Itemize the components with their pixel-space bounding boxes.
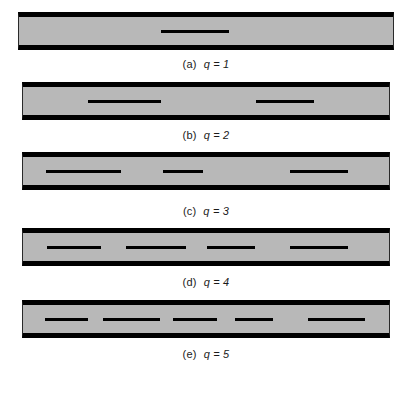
crack-segment-d-3: [207, 246, 255, 249]
crack-segment-b-2: [256, 100, 314, 103]
crack-segment-b-1: [88, 100, 161, 103]
panel-caption-e: (e)q = 5: [0, 348, 412, 360]
panel-caption-c: (c)q = 3: [0, 205, 412, 217]
crack-segment-c-3: [290, 170, 348, 173]
crack-segment-c-1: [46, 170, 121, 173]
caption-expression-d: q = 4: [204, 276, 230, 288]
figure-container: (a)q = 1(b)q = 2(c)q = 3(d)q = 4(e)q = 5: [0, 0, 412, 400]
crack-segment-e-5: [308, 318, 365, 321]
caption-label-c: (c): [183, 205, 196, 217]
crack-segment-e-3: [173, 318, 217, 321]
caption-expression-b: q = 2: [204, 129, 230, 141]
panel-caption-a: (a)q = 1: [0, 58, 412, 70]
specimen-bar-b: [22, 82, 390, 120]
caption-label-a: (a): [183, 58, 197, 70]
crack-segment-c-2: [163, 170, 203, 173]
caption-label-e: (e): [183, 348, 197, 360]
caption-expression-c: q = 3: [203, 205, 229, 217]
panel-caption-d: (d)q = 4: [0, 276, 412, 288]
crack-segment-a-1: [161, 30, 229, 33]
crack-segment-d-1: [47, 246, 101, 249]
caption-expression-a: q = 1: [204, 58, 230, 70]
caption-label-b: (b): [183, 129, 197, 141]
crack-segment-e-4: [235, 318, 273, 321]
crack-segment-e-1: [45, 318, 88, 321]
caption-expression-e: q = 5: [204, 348, 230, 360]
panel-caption-b: (b)q = 2: [0, 129, 412, 141]
crack-segment-e-2: [103, 318, 160, 321]
crack-segment-d-2: [126, 246, 186, 249]
caption-label-d: (d): [183, 276, 197, 288]
crack-segment-d-4: [290, 246, 348, 249]
